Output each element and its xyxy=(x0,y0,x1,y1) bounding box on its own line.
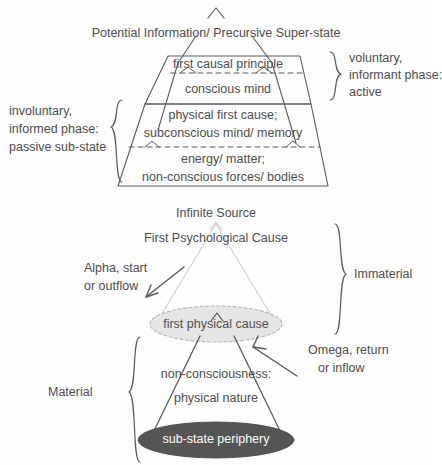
band-first-causal-principle: first causal principle xyxy=(146,57,310,72)
band-physical-first-cause: physical first cause; xyxy=(118,108,328,123)
lower-cone-left-edge xyxy=(152,336,200,435)
band-conscious-mind: conscious mind xyxy=(146,82,310,97)
alpha-arrow-shaft xyxy=(146,267,184,297)
physical-nature-label: physical nature xyxy=(116,391,316,406)
infinite-source-label: Infinite Source xyxy=(0,206,432,221)
left-bracket-line-1: involuntary, xyxy=(9,104,72,119)
right-brace-top xyxy=(330,52,341,100)
right-bracket-line-3: active xyxy=(349,85,382,100)
band-energy-matter: energy/ matter; xyxy=(118,152,328,167)
non-consciousness-label: non-consciousness: xyxy=(116,367,316,382)
left-bracket-line-2: informed phase: xyxy=(9,122,99,137)
left-bracket-line-3: passive sub-state xyxy=(9,140,106,155)
first-physical-cause-label: first physical cause xyxy=(150,317,282,332)
band-non-conscious-forces: non-conscious forces/ bodies xyxy=(118,170,328,185)
omega-label-line-2: or inflow xyxy=(318,361,365,376)
lower-divider-caret-left xyxy=(145,141,159,147)
right-bracket-line-1: voluntary, xyxy=(349,51,402,66)
right-bracket-line-2: informant phase: xyxy=(349,68,442,83)
material-label: Material xyxy=(48,385,92,400)
top-apex-caret xyxy=(208,8,224,18)
top-heading: Potential Information/ Precursive Super-… xyxy=(0,26,432,41)
alpha-label-line-2: or outflow xyxy=(84,279,138,294)
alpha-label-line-1: Alpha, start xyxy=(84,261,147,276)
lower-divider-caret-right xyxy=(286,141,300,147)
upper-cone-apex-caret xyxy=(210,222,222,230)
first-psychological-cause-label: First Psychological Cause xyxy=(0,231,432,246)
sub-state-periphery-label: sub-state periphery xyxy=(136,432,296,447)
omega-label-line-1: Omega, return xyxy=(308,343,389,358)
immaterial-label: Immaterial xyxy=(354,267,412,282)
band-subconscious-mind-memory: subconscious mind/ memory xyxy=(118,126,328,141)
